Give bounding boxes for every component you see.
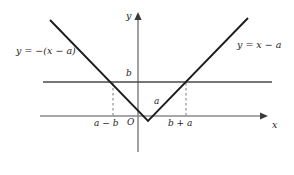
graph-canvas bbox=[0, 0, 294, 175]
y-axis-arrow-icon bbox=[134, 12, 141, 20]
origin-label: O bbox=[127, 118, 134, 127]
x-tick-label-left: a − b bbox=[94, 119, 118, 128]
left-branch-equation-label: y = −(x − a) bbox=[16, 46, 76, 56]
vertex-offset-label: a bbox=[154, 97, 159, 106]
x-tick-label-right: b + a bbox=[168, 119, 192, 128]
y-axis-label: y bbox=[126, 11, 131, 21]
x-axis-arrow-icon bbox=[260, 112, 268, 119]
hline-value-label: b bbox=[126, 69, 132, 78]
absolute-value-curve bbox=[50, 18, 248, 121]
absolute-value-graph-figure: y = −(x − a) y = x − a y x O b a a − b b… bbox=[0, 0, 294, 175]
x-axis-label: x bbox=[272, 120, 277, 130]
right-branch-equation-label: y = x − a bbox=[237, 40, 281, 50]
